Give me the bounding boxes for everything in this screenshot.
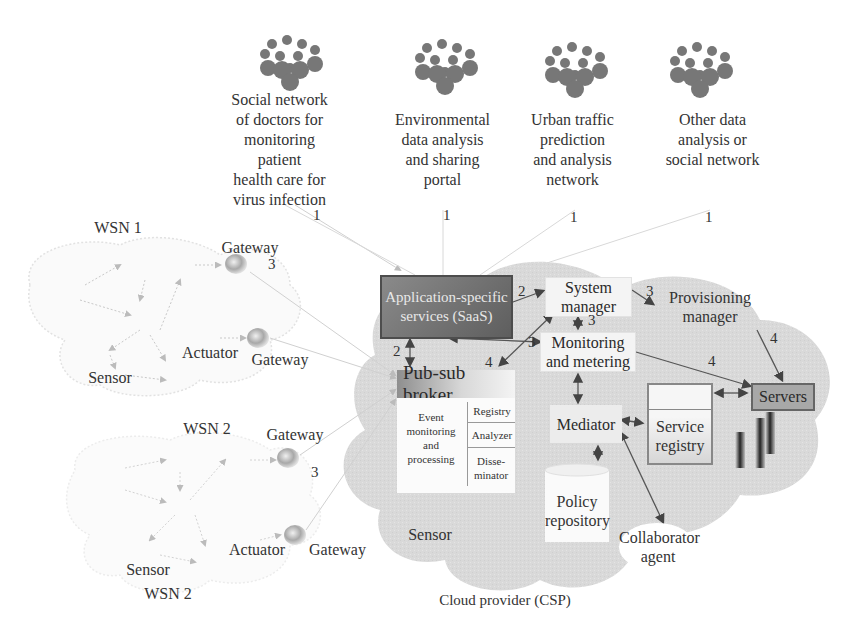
user-group-label-3: Urban traffic prediction and analysis ne… xyxy=(515,110,630,190)
divider xyxy=(467,402,468,486)
monitoring-box[interactable]: Monitoring and metering xyxy=(540,332,636,372)
saas-label: Application-specific services (SaaS) xyxy=(382,288,511,326)
link-number: 4 xyxy=(708,353,716,370)
mediator-label: Mediator xyxy=(557,415,616,434)
link-number: 3 xyxy=(268,256,276,273)
pubsub-broker-body: Event monitoring and processing Registry… xyxy=(397,398,515,493)
link-number: 3 xyxy=(646,283,654,300)
registry-label: Registry xyxy=(469,404,515,418)
people-group-icon-2 xyxy=(415,39,478,95)
servers-label: Servers xyxy=(759,388,807,406)
wsn2-title-top: WSN 2 xyxy=(177,419,237,439)
cloud-sensor-label: Sensor xyxy=(400,525,460,545)
divider xyxy=(649,409,711,410)
link-number: 4 xyxy=(770,330,778,347)
wsn1-title: WSN 1 xyxy=(88,218,148,238)
service-registry-label: Service registry xyxy=(649,417,711,463)
link-number: 1 xyxy=(313,207,321,224)
system-manager-box[interactable]: System manager xyxy=(545,277,632,317)
link-number: 1 xyxy=(705,209,713,226)
provisioning-manager-label[interactable]: Provisioning manager xyxy=(655,288,765,326)
wsn2-gateway-top-label: Gateway xyxy=(260,425,330,445)
wsn2-gateway-bottom-label: Gateway xyxy=(300,540,375,560)
link-number: 2 xyxy=(393,343,401,360)
people-groups xyxy=(260,35,733,98)
user-to-saas-links xyxy=(285,205,710,275)
event-processing-label: Event monitoring and processing xyxy=(399,410,463,466)
wsn1-gateway-bottom-icon xyxy=(247,328,269,348)
people-group-icon-4 xyxy=(670,42,733,98)
link-number: 4 xyxy=(485,354,493,371)
wsn2-actuator-label: Actuator xyxy=(222,540,292,560)
people-group-icon-1 xyxy=(260,35,323,91)
analyzer-label: Analyzer xyxy=(469,428,515,442)
wsn1-cloud-shape xyxy=(29,238,301,396)
divider xyxy=(468,447,515,448)
cloud-provider-label: Cloud provider (CSP) xyxy=(425,590,585,610)
user-group-label-4: Other data analysis or social network xyxy=(645,110,780,170)
link-number: 1 xyxy=(570,209,578,226)
collaborator-agent-label[interactable]: Collaborator agent xyxy=(619,528,697,566)
service-registry-box[interactable]: Service registry xyxy=(647,383,713,465)
saas-box[interactable]: Application-specific services (SaaS) xyxy=(380,275,513,339)
link-number: 1 xyxy=(443,207,451,224)
wsn2-title-bottom: WSN 2 xyxy=(138,584,198,604)
mediator-box[interactable]: Mediator xyxy=(550,405,622,443)
wsn1-gateway-bottom-label: Gateway xyxy=(245,350,315,370)
user-group-label-2: Environmental data analysis and sharing … xyxy=(385,110,500,190)
link-number: 3 xyxy=(311,464,319,481)
wsn2-gateway-top-icon xyxy=(277,448,299,468)
servers-box[interactable]: Servers xyxy=(751,383,815,411)
wsn1-sensor-label: Sensor xyxy=(80,368,140,388)
people-group-icon-3 xyxy=(545,42,608,98)
link-number: 3 xyxy=(528,334,536,351)
link-number: 2 xyxy=(518,283,526,300)
divider xyxy=(468,422,515,423)
disseminator-label: Disse-minator xyxy=(471,454,511,482)
user-group-label-1: Social network of doctors for monitoring… xyxy=(222,90,337,210)
link-number: 3 xyxy=(588,312,596,329)
wsn1-actuator-label: Actuator xyxy=(175,343,245,363)
monitoring-label: Monitoring and metering xyxy=(541,333,635,371)
pubsub-broker-header[interactable]: Pub-sub broker xyxy=(397,370,515,398)
wsn1-gateway-top-label: Gateway xyxy=(215,238,285,258)
system-manager-label: System manager xyxy=(546,278,631,316)
wsn2-sensor-label: Sensor xyxy=(118,560,178,580)
policy-repository-label[interactable]: Policy repository xyxy=(545,492,609,530)
